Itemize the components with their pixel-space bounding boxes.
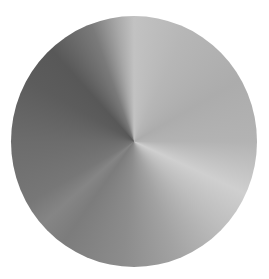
disc-description: Brushed metal conic-gradient disc [11, 16, 12, 17]
brushed-metal-disc: Brushed metal conic-gradient disc [11, 16, 257, 267]
